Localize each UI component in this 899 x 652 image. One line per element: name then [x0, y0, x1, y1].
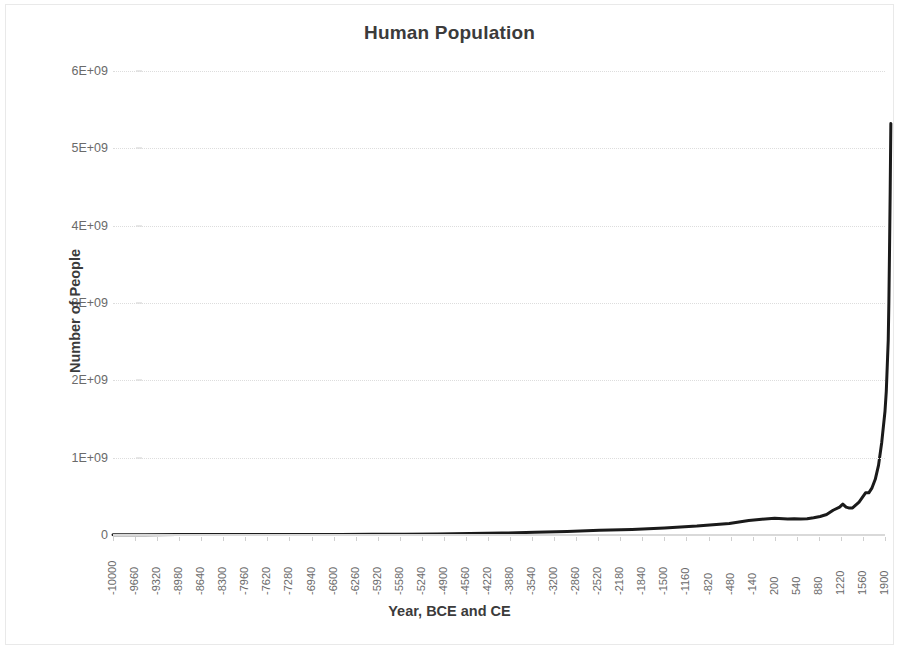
- x-tick-label: -4220: [482, 567, 492, 595]
- x-axis-title: Year, BCE and CE: [0, 603, 899, 619]
- x-tick-mark: [488, 537, 489, 541]
- x-tick-mark: [709, 537, 710, 541]
- x-tick-label: 1900: [879, 571, 889, 595]
- x-tick-label: 880: [813, 577, 823, 595]
- x-tick-mark: [642, 537, 643, 541]
- x-tick-mark: [532, 537, 533, 541]
- x-tick-mark: [598, 537, 599, 541]
- x-tick-mark: [157, 537, 158, 541]
- x-tick-label: -6600: [328, 567, 338, 595]
- chart-figure: Human Population 01E+092E+093E+094E+095E…: [0, 0, 899, 652]
- x-tick-label: -5580: [394, 567, 404, 595]
- x-tick-label: -4900: [438, 567, 448, 595]
- x-tick-label: -2860: [570, 567, 580, 595]
- x-tick-mark: [797, 537, 798, 541]
- x-tick-label: -1840: [636, 567, 646, 595]
- x-tick-mark: [179, 537, 180, 541]
- x-tick-mark: [775, 537, 776, 541]
- gridline: [113, 458, 885, 460]
- x-tick-mark: [466, 537, 467, 541]
- x-tick-mark: [819, 537, 820, 541]
- y-axis-title: Number of People: [67, 216, 83, 406]
- x-tick-mark: [356, 537, 357, 541]
- plot-area: [113, 71, 885, 535]
- gridline: [113, 226, 885, 228]
- x-tick-label: -5920: [372, 567, 382, 595]
- y-tick-label: 5E+09: [38, 141, 108, 155]
- x-tick-label: -6260: [350, 567, 360, 595]
- x-tick-mark: [312, 537, 313, 541]
- x-tick-label: -10000: [107, 561, 117, 595]
- x-tick-label: -5240: [416, 567, 426, 595]
- x-tick-mark: [554, 537, 555, 541]
- x-tick-mark: [201, 537, 202, 541]
- x-tick-mark: [289, 537, 290, 541]
- y-tick-label: 0: [38, 528, 108, 542]
- x-tick-label: -8980: [173, 567, 183, 595]
- x-tick-mark: [664, 537, 665, 541]
- gridline: [113, 148, 885, 150]
- chart-title: Human Population: [0, 22, 899, 44]
- x-tick-mark: [863, 537, 864, 541]
- x-tick-mark: [334, 537, 335, 541]
- x-axis-line: [113, 534, 885, 536]
- x-tick-mark: [753, 537, 754, 541]
- x-tick-mark: [422, 537, 423, 541]
- x-tick-mark: [113, 537, 114, 541]
- x-tick-mark: [400, 537, 401, 541]
- x-tick-mark: [378, 537, 379, 541]
- x-tick-label: -8640: [195, 567, 205, 595]
- x-tick-label: -8300: [217, 567, 227, 595]
- x-tick-mark: [510, 537, 511, 541]
- x-tick-label: -3540: [526, 567, 536, 595]
- x-tick-label: -1160: [680, 568, 690, 595]
- x-tick-mark: [245, 537, 246, 541]
- x-tick-label: 1560: [857, 571, 867, 595]
- x-tick-mark: [444, 537, 445, 541]
- x-tick-label: 540: [791, 577, 801, 595]
- x-tick-label: -480: [725, 573, 735, 595]
- x-tick-label: -7280: [283, 567, 293, 595]
- gridline: [113, 71, 885, 73]
- x-tick-mark: [620, 537, 621, 541]
- x-tick-label: -4560: [460, 567, 470, 595]
- gridline: [113, 303, 885, 305]
- x-tick-label: -1500: [658, 567, 668, 595]
- x-tick-label: -9320: [151, 567, 161, 595]
- x-tick-mark: [223, 537, 224, 541]
- x-tick-label: -6940: [306, 567, 316, 595]
- x-tick-label: -7620: [261, 567, 271, 595]
- x-tick-mark: [841, 537, 842, 541]
- x-tick-label: -3880: [504, 567, 514, 595]
- x-axis-tick-labels: -10000-9660-9320-8980-8640-8300-7960-762…: [113, 537, 885, 595]
- x-tick-label: -820: [703, 573, 713, 595]
- x-tick-label: 1220: [835, 571, 845, 595]
- gridline: [113, 380, 885, 382]
- x-tick-label: -9660: [129, 567, 139, 595]
- x-tick-mark: [686, 537, 687, 541]
- x-tick-label: -3200: [548, 567, 558, 595]
- x-tick-mark: [576, 537, 577, 541]
- x-tick-mark: [135, 537, 136, 541]
- x-tick-label: 200: [769, 577, 779, 595]
- x-tick-label: -140: [747, 573, 757, 595]
- x-tick-mark: [731, 537, 732, 541]
- y-tick-label: 6E+09: [38, 64, 108, 78]
- x-tick-mark: [885, 537, 886, 541]
- x-tick-label: -7960: [239, 567, 249, 595]
- x-tick-label: -2180: [614, 567, 624, 595]
- y-tick-label: 1E+09: [38, 451, 108, 465]
- x-tick-label: -2520: [592, 567, 602, 595]
- x-tick-mark: [267, 537, 268, 541]
